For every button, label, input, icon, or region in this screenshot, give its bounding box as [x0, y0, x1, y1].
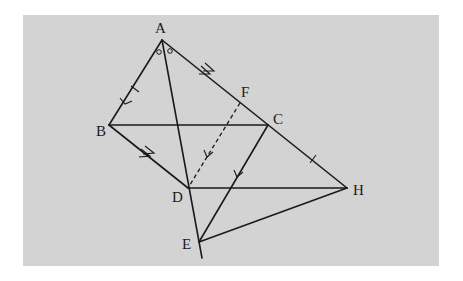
- label-E: E: [182, 236, 191, 252]
- label-B: B: [96, 123, 106, 139]
- label-C: C: [273, 111, 283, 127]
- geometry-diagram: A B C D E F H: [0, 0, 463, 281]
- diagram-background: [23, 15, 439, 266]
- label-F: F: [241, 84, 249, 100]
- label-H: H: [353, 182, 364, 198]
- label-A: A: [155, 20, 166, 36]
- label-D: D: [172, 189, 183, 205]
